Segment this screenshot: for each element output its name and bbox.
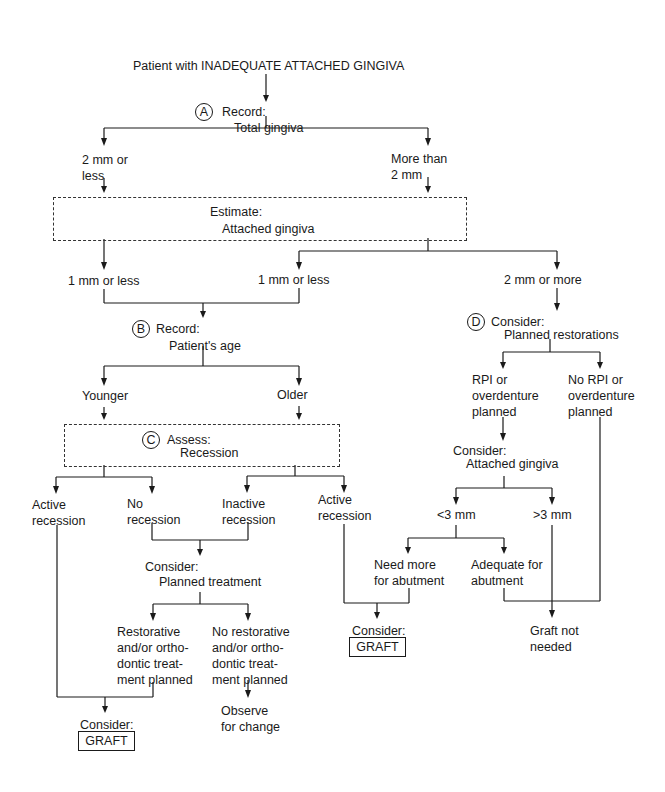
node-younger: Younger — [82, 388, 128, 404]
node-observe-for-change: Observe for change — [221, 703, 280, 735]
node-greater-than-3mm: >3 mm — [533, 507, 572, 523]
node-2mm-or-less: 2 mm or less — [82, 152, 128, 184]
start-node: Patient with INADEQUATE ATTACHED GINGIVA — [133, 58, 404, 74]
node-inactive-recession: Inactive recession — [222, 496, 276, 528]
step-a-marker: A — [195, 103, 213, 121]
step-b-marker: B — [132, 320, 150, 338]
node-1mm-or-less-a: 1 mm or less — [68, 273, 140, 289]
node-more-than-2mm: More than 2 mm — [391, 151, 447, 183]
graft-left-box: GRAFT — [78, 731, 135, 751]
node-no-rpi-planned: No RPI or overdenture planned — [568, 372, 635, 420]
planned-treatment-subject: Planned treatment — [159, 574, 261, 590]
attached-gingiva-subject: Attached gingiva — [466, 456, 558, 472]
estimate-action: Estimate: — [210, 204, 262, 220]
node-rpi-planned: RPI or overdenture planned — [472, 372, 539, 420]
step-d-marker: D — [467, 313, 485, 331]
step-c-subject: Recession — [180, 445, 238, 461]
node-no-recession: No recession — [127, 496, 181, 528]
step-b-action: Record: — [156, 321, 200, 337]
step-a-action: Record: — [222, 104, 266, 120]
node-need-more-for-abutment: Need more for abutment — [374, 557, 444, 589]
node-adequate-for-abutment: Adequate for abutment — [471, 557, 543, 589]
step-a-subject: Total gingiva — [234, 120, 304, 136]
estimate-subject: Attached gingiva — [222, 221, 314, 237]
node-active-recession-right: Active recession — [318, 492, 372, 524]
node-active-recession-left: Active recession — [32, 497, 86, 529]
node-older: Older — [277, 387, 308, 403]
step-c-marker: C — [142, 431, 160, 449]
planned-treatment-action: Consider: — [145, 559, 199, 575]
node-1mm-or-less-b: 1 mm or less — [258, 272, 330, 288]
node-no-restorative-planned: No restorative and/or ortho- dontic trea… — [212, 624, 290, 688]
node-graft-not-needed: Graft not needed — [530, 623, 579, 655]
step-b-subject: Patient's age — [169, 338, 241, 354]
step-d-subject: Planned restorations — [504, 327, 619, 343]
node-2mm-or-more: 2 mm or more — [504, 272, 582, 288]
node-less-than-3mm: <3 mm — [437, 507, 476, 523]
node-restorative-planned: Restorative and/or ortho- dontic treat- … — [117, 624, 193, 688]
graft-mid-box: GRAFT — [349, 637, 406, 657]
